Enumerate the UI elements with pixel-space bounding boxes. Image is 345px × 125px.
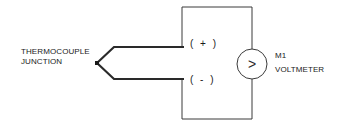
meter-id-label: M1 (275, 51, 286, 61)
wire-negative-loop (182, 79, 252, 119)
junction-label-line1: THERMOCOUPLE (21, 47, 90, 57)
negative-terminal-label: ( - ) (190, 74, 216, 85)
thermocouple-lead-positive (97, 47, 184, 63)
junction-label-line2: JUNCTION (21, 57, 62, 67)
voltmeter-glyph: > (248, 56, 256, 72)
thermocouple-lead-negative (97, 63, 184, 79)
positive-terminal-label: ( + ) (190, 38, 218, 49)
meter-name-label: VOLTMETER (275, 65, 324, 75)
thermocouple-junction-dot (95, 61, 99, 65)
